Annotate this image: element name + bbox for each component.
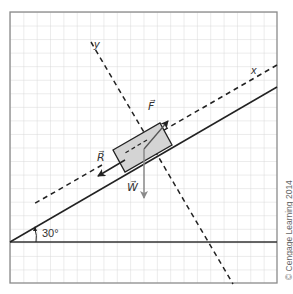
force-w-label: W⃗ — [127, 180, 139, 193]
incline-diagram: y x F⃗ R⃗ W⃗ 30° — [0, 0, 293, 294]
x-axis-label: x — [250, 64, 257, 76]
copyright-credit: © Cengage Learning 2014 — [284, 180, 293, 280]
force-r-label: R⃗ — [97, 150, 105, 163]
angle-label: 30° — [42, 227, 59, 239]
diagram-canvas: y x F⃗ R⃗ W⃗ 30° © Cengage Learning 2014 — [0, 0, 293, 294]
